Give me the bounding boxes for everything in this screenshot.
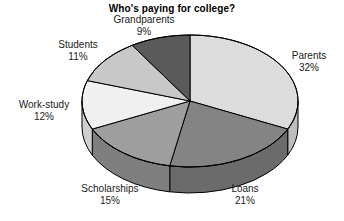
slice-label-parents-value: 32%	[278, 62, 340, 74]
slice-label-loans-name: Loans	[214, 183, 276, 195]
slice-label-students: Students 11%	[40, 39, 116, 63]
slice-label-work-study-name: Work-study	[2, 99, 86, 111]
slice-label-scholarships-value: 15%	[62, 195, 158, 207]
slice-label-students-value: 11%	[40, 51, 116, 63]
slice-label-grandparents-value: 9%	[96, 26, 192, 38]
slice-label-scholarships: Scholarships 15%	[62, 183, 158, 207]
slice-label-parents-name: Parents	[278, 50, 340, 62]
slice-label-loans: Loans 21%	[214, 183, 276, 207]
slice-label-students-name: Students	[40, 39, 116, 51]
slice-label-parents: Parents 32%	[278, 50, 340, 74]
slice-label-loans-value: 21%	[214, 195, 276, 207]
slice-label-scholarships-name: Scholarships	[62, 183, 158, 195]
slice-label-work-study-value: 12%	[2, 111, 86, 123]
slice-label-grandparents: Grandparents 9%	[96, 14, 192, 38]
pie-chart-figure: Who's paying for college? Grandparents 9…	[0, 0, 344, 221]
slice-label-work-study: Work-study 12%	[2, 99, 86, 123]
slice-label-grandparents-name: Grandparents	[96, 14, 192, 26]
